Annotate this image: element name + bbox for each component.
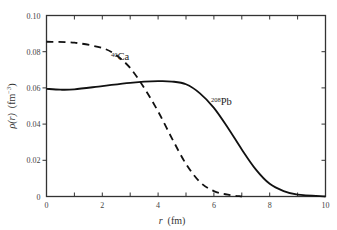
x-tick-label: 0: [45, 201, 49, 210]
axis-ticks: [43, 16, 326, 197]
x-tick-label: 8: [268, 201, 272, 210]
y-tick-label: 0.10: [27, 12, 41, 21]
pb208-density-curve: [47, 81, 326, 196]
y-axis-label: ρ(r)(fm−3): [5, 83, 18, 129]
x-tick-label: 2: [100, 201, 104, 210]
y-tick-label: 0.04: [27, 120, 41, 129]
pb208-label: 208Pb: [211, 96, 232, 107]
ca40-label: 40Ca: [111, 51, 130, 62]
x-axis-label: r(fm): [159, 215, 186, 227]
y-tick-label: 0.08: [27, 48, 41, 57]
y-tick-label: 0.02: [27, 156, 41, 165]
tick-labels: 024681000.020.040.060.080.10: [27, 12, 330, 210]
x-tick-label: 4: [156, 201, 160, 210]
x-tick-label: 10: [322, 201, 330, 210]
ca40-density-curve: [47, 42, 242, 197]
y-tick-label: 0: [37, 193, 41, 202]
y-tick-label: 0.06: [27, 84, 41, 93]
density-chart: 024681000.020.040.060.080.10 40Ca 208Pb …: [0, 0, 337, 230]
plot-frame: [47, 16, 326, 197]
x-tick-label: 6: [212, 201, 216, 210]
